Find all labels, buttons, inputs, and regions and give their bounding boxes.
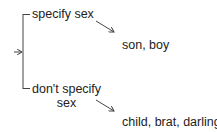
result-child-brat-darling: child, brat, darling	[122, 115, 217, 129]
choice-bracket	[23, 14, 30, 89]
arrow-to-result-top-icon	[96, 21, 114, 32]
option-dont-specify-line1: don't specify	[32, 82, 101, 96]
diagram-canvas: specify sex don't specify sex son, boy c…	[0, 0, 217, 132]
option-dont-specify-line2: sex	[32, 96, 101, 110]
option-dont-specify-sex: don't specify sex	[32, 82, 101, 110]
option-specify-sex: specify sex	[32, 7, 94, 21]
result-son-boy: son, boy	[122, 38, 169, 52]
